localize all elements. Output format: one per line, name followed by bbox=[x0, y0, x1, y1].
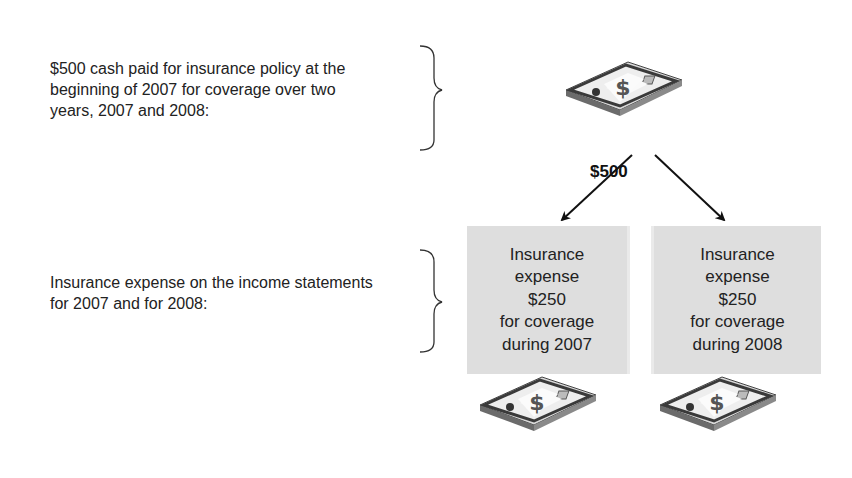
box-amount: $250 bbox=[467, 289, 627, 312]
expense-box-2008: Insurance expense $250 for coverage duri… bbox=[651, 226, 821, 374]
box-line: for coverage bbox=[654, 311, 821, 334]
cash-amount-label: $500 bbox=[590, 162, 628, 182]
top-brace bbox=[420, 46, 442, 150]
box-line: expense bbox=[654, 266, 821, 289]
box-line: Insurance bbox=[654, 244, 821, 267]
box-line: for coverage bbox=[467, 311, 627, 334]
bottom-brace bbox=[420, 250, 442, 352]
box-amount: $250 bbox=[654, 289, 821, 312]
box-line: during 2007 bbox=[467, 334, 627, 357]
box-line: Insurance bbox=[467, 244, 627, 267]
box-line: during 2008 bbox=[654, 334, 821, 357]
expense-box-2007: Insurance expense $250 for coverage duri… bbox=[467, 226, 630, 374]
money-stack-icon bbox=[566, 62, 682, 116]
box-line: expense bbox=[467, 266, 627, 289]
money-stack-icon bbox=[660, 377, 776, 431]
money-stack-icon bbox=[480, 377, 596, 431]
